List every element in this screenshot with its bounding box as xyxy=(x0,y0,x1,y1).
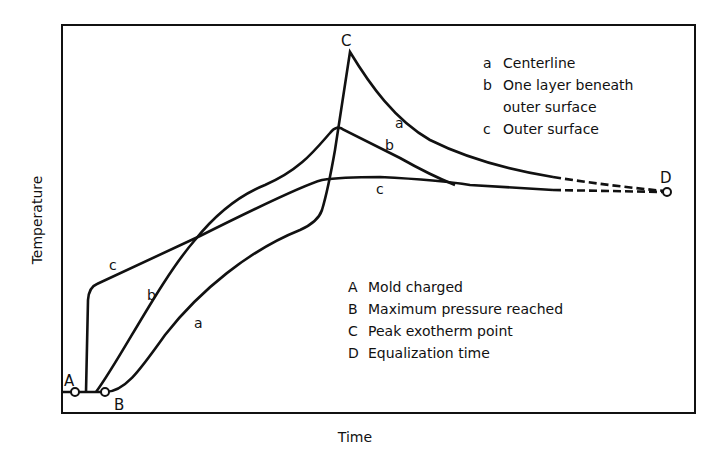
curve-letter-a-upper: a xyxy=(395,115,404,131)
legend-key-B: B xyxy=(348,301,358,317)
marker-label-c: C xyxy=(341,32,351,50)
legend-text-A: Mold charged xyxy=(368,279,463,295)
point-legend: A Mold charged B Maximum pressure reache… xyxy=(348,279,563,361)
legend-text-C: Peak exotherm point xyxy=(368,323,513,339)
legend-key-A: A xyxy=(348,279,358,295)
legend-text-c: Outer surface xyxy=(503,121,599,137)
legend-text-a: Centerline xyxy=(503,55,575,71)
curve-c-dashed xyxy=(553,190,665,192)
x-axis-label: Time xyxy=(337,429,372,445)
legend-key-C: C xyxy=(348,323,358,339)
legend-key-c: c xyxy=(483,121,491,137)
curve-a-centerline xyxy=(105,52,553,392)
legend-key-a: a xyxy=(483,55,492,71)
curve-letter-c-upper: c xyxy=(376,181,384,197)
curve-letter-b-upper: b xyxy=(385,137,394,153)
curve-letter-c-lower: c xyxy=(109,257,117,273)
legend-text-b-cont: outer surface xyxy=(503,99,597,115)
marker-label-a: A xyxy=(64,372,75,390)
legend-text-B: Maximum pressure reached xyxy=(368,301,563,317)
marker-d-equalization xyxy=(663,188,671,196)
curve-letter-b-lower: b xyxy=(147,287,156,303)
curve-a-dashed xyxy=(553,177,665,191)
legend-text-D: Equalization time xyxy=(368,345,490,361)
curve-letter-a-lower: a xyxy=(194,315,203,331)
legend-text-b: One layer beneath xyxy=(503,77,633,93)
marker-label-d: D xyxy=(660,169,672,187)
marker-b-max-pressure xyxy=(101,388,109,396)
marker-label-b: B xyxy=(114,396,124,414)
legend-key-D: D xyxy=(348,345,359,361)
legend-key-b: b xyxy=(483,77,492,93)
chart-canvas: A B C D a b c c b a a Centerline b One l… xyxy=(0,0,725,465)
y-axis-label: Temperature xyxy=(29,176,45,266)
curve-legend: a Centerline b One layer beneath outer s… xyxy=(483,55,633,137)
